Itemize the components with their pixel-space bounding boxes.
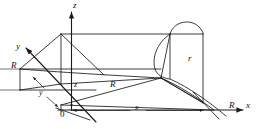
label-radius-y-axis: R (11, 61, 17, 70)
node-to-foot (161, 78, 203, 103)
axis-label-z: z (73, 1, 77, 10)
axis-label-x: x (246, 101, 250, 110)
label-origin: 0 (60, 110, 65, 119)
cylinder-top-arc (170, 22, 203, 34)
geometry-figure: z y x R R R r z y x 0 (0, 0, 256, 129)
label-cylinder-radius: r (188, 54, 192, 63)
y-axis-extension-right (193, 92, 219, 119)
figure-canvas (0, 0, 256, 129)
axis-label-y: y (16, 42, 20, 51)
label-radius-mid: R (110, 80, 116, 89)
dim-y-arrow-upper (33, 77, 44, 88)
sphere-arc-upper (20, 69, 161, 78)
label-radius-x-axis: R (229, 101, 235, 110)
label-dim-x: x (135, 104, 139, 112)
label-dim-z: z (74, 81, 77, 89)
dim-y-arrow-lower (47, 97, 58, 107)
label-dim-y: y (39, 89, 43, 97)
